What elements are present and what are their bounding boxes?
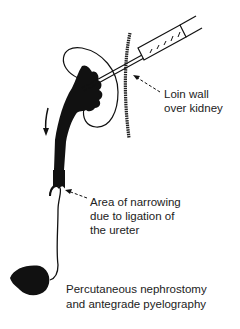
narrowing-leader xyxy=(68,191,87,198)
label-line: over kidney xyxy=(164,101,223,115)
bladder xyxy=(10,266,49,296)
loin-wall xyxy=(125,33,130,138)
loin-wall-label: Loin wall over kidney xyxy=(164,87,223,115)
label-line: Area of narrowing xyxy=(90,195,181,209)
ureter-narrowing-loop xyxy=(50,186,61,280)
figure-caption: Percutaneous nephrostomy and antegrade p… xyxy=(66,282,207,312)
label-line: due to ligation of xyxy=(90,209,181,223)
loin-wall-leader xyxy=(136,77,160,92)
narrowing-label: Area of narrowing due to ligation of the… xyxy=(90,195,181,237)
caption-line: Percutaneous nephrostomy xyxy=(66,282,207,297)
caption-line: and antegrade pyelography xyxy=(66,297,207,312)
label-line: Loin wall xyxy=(164,87,223,101)
syringe xyxy=(138,16,202,60)
nephrostomy-diagram xyxy=(0,0,240,329)
label-line: the ureter xyxy=(90,223,181,237)
